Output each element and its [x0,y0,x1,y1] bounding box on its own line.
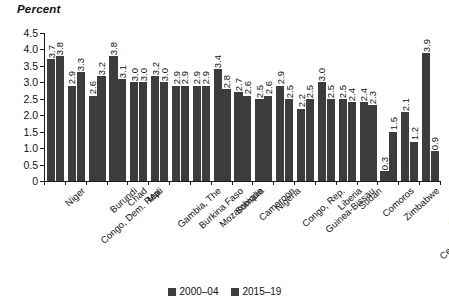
y-tick-mark [40,148,44,149]
bar-group: 3.83.1 [108,33,129,181]
bar[interactable]: 1.2 [410,142,418,181]
y-tick-mark [40,99,44,100]
bar[interactable]: 2.4 [360,102,368,181]
bar[interactable]: 0.9 [431,151,439,181]
y-tick-mark [40,33,44,34]
bar-value-label: 0.9 [429,137,440,150]
bar-group: 3.42.8 [212,33,233,181]
legend-label: 2015–19 [243,286,282,297]
bar-value-label: 1.2 [409,127,420,140]
bars-layer: 3.73.82.93.32.63.23.83.13.03.03.23.02.92… [45,33,441,181]
bar-value-label: 3.0 [159,68,170,81]
bar-value-label: 2.6 [242,81,253,94]
bar[interactable]: 3.2 [97,76,105,181]
bar-group: 3.73.8 [45,33,66,181]
bar[interactable]: 2.9 [193,86,201,181]
bar[interactable]: 2.2 [297,109,305,181]
bar-group: 3.02.5 [316,33,337,181]
bar[interactable]: 2.8 [222,89,230,181]
y-tick-mark [40,49,44,50]
y-tick-label: 2.5 [23,93,38,105]
bar[interactable]: 3.1 [118,79,126,181]
bar[interactable]: 2.5 [339,99,347,181]
legend-label: 2000–04 [180,286,219,297]
bar-value-label: 2.6 [263,81,274,94]
y-tick-mark [40,165,44,166]
chart-container: Percent 00.51.01.52.02.53.03.54.04.5 3.7… [0,0,449,303]
bar-value-label: 3.0 [316,68,327,81]
bar[interactable]: 2.7 [234,92,242,181]
bar-value-label: 2.9 [179,71,190,84]
y-tick-label: 1.5 [23,126,38,138]
bar[interactable]: 3.0 [139,82,147,181]
bar-group: 2.22.5 [295,33,316,181]
bar[interactable]: 2.9 [276,86,284,181]
bar[interactable]: 2.9 [202,86,210,181]
bar[interactable]: 2.9 [68,86,76,181]
bar-value-label: 3.0 [138,68,149,81]
bar-value-label: 2.5 [284,85,295,98]
x-axis-labels: NigerCongo, Dem. Rep.BurundiChadMaliGamb… [44,185,441,265]
bar[interactable]: 1.5 [389,132,397,181]
bar-value-label: 2.5 [325,85,336,98]
bar[interactable]: 0.3 [380,171,388,181]
bar[interactable]: 2.3 [368,105,376,181]
bar-group: 3.23.0 [149,33,170,181]
bar-group: 2.63.2 [87,33,108,181]
bar-value-label: 2.3 [367,91,378,104]
bar[interactable]: 2.9 [181,86,189,181]
x-axis-line [44,181,441,182]
bar[interactable]: 2.6 [264,96,272,182]
bar[interactable]: 2.5 [306,99,314,181]
y-tick-mark [40,132,44,133]
legend-swatch-icon [168,288,176,296]
y-tick-label: 4.5 [23,27,38,39]
bar[interactable]: 2.9 [172,86,180,181]
bar-group: 3.03.0 [128,33,149,181]
bar[interactable]: 3.8 [56,56,64,181]
bar-group: 3.90.9 [420,33,441,181]
bar-value-label: 2.9 [275,71,286,84]
y-tick-label: 3.5 [23,60,38,72]
bar[interactable]: 2.5 [327,99,335,181]
bar-value-label: 3.1 [117,65,128,78]
bar-value-label: 2.8 [221,75,232,88]
legend-item[interactable]: 2015–19 [231,286,282,297]
bar-value-label: 3.4 [212,55,223,68]
bar-value-label: 3.9 [421,39,432,52]
bar-value-label: 3.8 [108,42,119,55]
y-tick-label: 0.5 [23,159,38,171]
bar-value-label: 3.2 [96,62,107,75]
bar-group: 2.72.6 [233,33,254,181]
y-tick-label: 3.0 [23,76,38,88]
chart-legend: 2000–042015–19 [0,286,449,297]
bar[interactable]: 2.5 [285,99,293,181]
x-axis-label: Niger [63,185,87,208]
bar-value-label: 2.9 [200,71,211,84]
bar[interactable]: 3.2 [151,76,159,181]
bar[interactable]: 2.4 [348,102,356,181]
bar[interactable]: 3.7 [47,59,55,181]
bar-value-label: 1.5 [388,117,399,130]
bar[interactable]: 3.0 [130,82,138,181]
bar[interactable]: 2.1 [401,112,409,181]
bar[interactable]: 3.3 [77,72,85,181]
bar[interactable]: 3.0 [160,82,168,181]
legend-item[interactable]: 2000–04 [168,286,219,297]
bar-group: 2.92.5 [274,33,295,181]
bar-value-label: 2.1 [400,98,411,111]
y-tick-mark [40,115,44,116]
bar[interactable]: 3.9 [422,53,430,181]
bar[interactable]: 2.5 [255,99,263,181]
bar[interactable]: 2.6 [89,96,97,182]
bar-value-label: 2.5 [304,85,315,98]
bar-value-label: 3.3 [75,58,86,71]
bar-value-label: 3.8 [54,42,65,55]
y-tick-label: 4.0 [23,43,38,55]
bar-group: 0.31.5 [378,33,399,181]
plot-area: 00.51.01.52.02.53.03.54.04.5 3.73.82.93.… [44,33,441,181]
bar-group: 2.52.4 [337,33,358,181]
bar[interactable]: 2.6 [243,96,251,182]
chart-title: Percent [17,3,61,15]
bar-group: 2.92.9 [191,33,212,181]
